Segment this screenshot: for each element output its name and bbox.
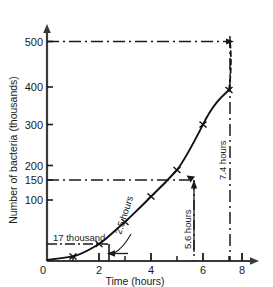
x-tick-label-6: 6 <box>200 264 206 276</box>
data-series-group <box>47 42 231 261</box>
data-point-marker-5h <box>174 167 181 173</box>
y-axis-title: Number of bacteria (thousands) <box>7 76 19 224</box>
y-tick-label-150: 150 <box>25 174 43 186</box>
y-tick-label-300: 300 <box>25 119 43 131</box>
annotation-2p5-hours-leader <box>114 234 131 253</box>
annotation-5p6-hours-arrowhead <box>191 180 197 189</box>
data-point-marker-4h <box>148 194 155 200</box>
x-tick-label-8: 8 <box>239 264 245 276</box>
y-tick-label-500: 500 <box>25 36 43 48</box>
y-tick-labels-group: 500 400 300 200 150 100 0 <box>25 36 46 277</box>
bacteria-growth-chart: 500 400 300 200 150 100 0 2 4 6 8 <box>0 0 273 287</box>
x-ticks-group <box>73 253 242 261</box>
annotation-17-thousand: 17 thousand <box>53 232 105 243</box>
annotation-7p4-hours: 7.4 hours <box>217 140 228 180</box>
chart-canvas: 500 400 300 200 150 100 0 2 4 6 8 <box>0 0 273 287</box>
y-tick-label-400: 400 <box>25 81 43 93</box>
x-axis-title: Time (hours) <box>105 275 164 287</box>
annotation-5p6-hours: 5.6 hours <box>182 209 193 249</box>
x-axis-arrowhead <box>250 257 259 265</box>
reference-lines-group <box>47 36 234 261</box>
x-tick-label-2: 2 <box>96 264 102 276</box>
annotations-group: 17 thousand 2.5 hours 5.6 hours 7.4 hour… <box>53 140 228 257</box>
origin-label: 0 <box>40 264 46 276</box>
y-tick-label-100: 100 <box>25 194 43 206</box>
y-tick-label-200: 200 <box>25 160 43 172</box>
y-axis-arrowhead <box>43 24 51 33</box>
